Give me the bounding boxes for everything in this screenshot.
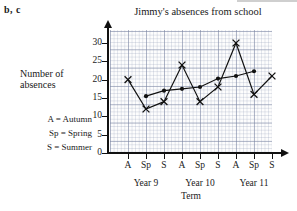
y-tick-label: 20 (82, 75, 102, 84)
y-tick (102, 61, 107, 62)
y-axis-arrow-icon (104, 20, 112, 28)
data-point-x-marker (197, 98, 204, 105)
y-tick-label: 15 (82, 93, 102, 102)
y-tick (102, 153, 107, 154)
y-axis-ticks: 051015202530 (76, 0, 102, 211)
data-point-dot-marker (198, 85, 202, 89)
data-point-x-marker (161, 98, 168, 105)
series-line-0 (128, 43, 272, 109)
y-tick-label: 5 (82, 130, 102, 139)
figure-root: b, c Jimmy's absences from school Number… (0, 0, 297, 211)
x-tick (146, 154, 147, 159)
y-tick-label: 0 (82, 148, 102, 157)
page-top-rule (0, 0, 297, 3)
y-tick (102, 98, 107, 99)
y-tick (102, 80, 107, 81)
x-tick (128, 154, 129, 159)
x-tick (218, 154, 219, 159)
data-point-dot-marker (144, 94, 148, 98)
x-tick (236, 154, 237, 159)
data-point-dot-marker (252, 69, 256, 73)
chart-title: Jimmy's absences from school (108, 6, 288, 17)
data-point-x-marker (269, 73, 276, 80)
y-tick (102, 43, 107, 44)
x-axis-title: Term (110, 191, 272, 201)
x-group-label: Year 10 (173, 178, 227, 188)
x-group-label: Year 11 (227, 178, 281, 188)
data-point-x-marker (143, 106, 150, 113)
y-tick (102, 135, 107, 136)
x-tick (272, 154, 273, 159)
plot-series-svg (110, 30, 297, 180)
data-point-dot-marker (180, 87, 184, 91)
x-tick (182, 154, 183, 159)
y-axis-line (107, 26, 109, 154)
x-group-label: Year 9 (119, 178, 173, 188)
data-point-dot-marker (162, 89, 166, 93)
y-tick-label: 25 (82, 56, 102, 65)
x-tick (254, 154, 255, 159)
x-axis-arrow-icon (281, 149, 289, 157)
data-point-dot-marker (234, 74, 238, 78)
data-point-x-marker (179, 62, 186, 69)
data-point-x-marker (125, 76, 132, 83)
x-axis-line (107, 152, 282, 154)
y-tick (102, 116, 107, 117)
data-point-x-marker (215, 84, 222, 91)
data-point-x-marker (233, 40, 240, 47)
data-point-x-marker (251, 91, 258, 98)
y-tick-label: 10 (82, 111, 102, 120)
figure-tag: b, c (4, 4, 21, 15)
data-point-dot-marker (216, 76, 220, 80)
x-tick-label: S (261, 160, 283, 170)
y-tick-label: 30 (82, 38, 102, 47)
plot-area (110, 30, 272, 153)
x-tick (164, 154, 165, 159)
x-tick (200, 154, 201, 159)
